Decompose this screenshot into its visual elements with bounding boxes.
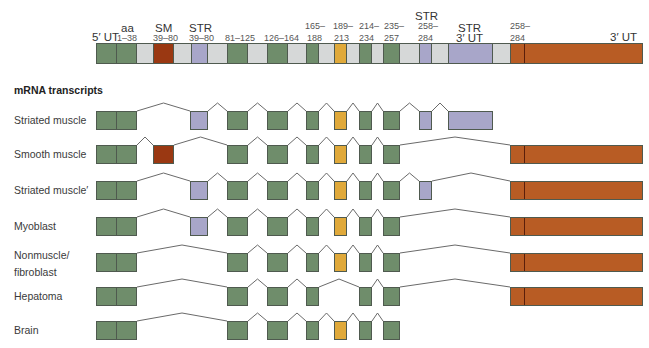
intron-line: [288, 137, 306, 145]
intron-line: [248, 137, 267, 145]
exon-e165: [306, 253, 319, 272]
exon-e81: [227, 253, 248, 272]
intron-line: [319, 279, 359, 287]
exon-brown: [510, 287, 643, 306]
intron-line: [248, 173, 267, 181]
exon-e126: [267, 111, 288, 130]
intron-line: [400, 245, 510, 253]
transcript-label: Striated muscle′: [14, 184, 88, 197]
exon-e5ut: [96, 253, 117, 272]
intron-line: [400, 173, 419, 181]
intron-line: [319, 103, 334, 111]
intron-line: [288, 245, 306, 253]
exon-e1: [116, 111, 137, 130]
intron-line: [288, 209, 306, 217]
exon-e214: [359, 321, 372, 340]
exon-e81: [227, 287, 248, 306]
exon-e214: [359, 253, 372, 272]
intron-line: [208, 173, 227, 181]
exon-e165: [306, 321, 319, 340]
intron-line: [288, 313, 306, 321]
exon-e81: [227, 111, 248, 130]
exon-e1: [116, 287, 137, 306]
exon-e165: [306, 217, 319, 236]
intron-line: [432, 173, 510, 181]
transcript-label-line: Striated muscle: [14, 114, 86, 127]
exon-e81: [227, 145, 248, 164]
exon-e1: [116, 145, 137, 164]
exon-e81: [227, 217, 248, 236]
transcript-label-line: Hepatoma: [14, 290, 62, 303]
intron-line: [137, 313, 227, 321]
exon-e126: [267, 181, 288, 200]
exon-e258: [419, 181, 432, 200]
exon-e235: [383, 217, 400, 236]
exon-e5ut: [96, 321, 117, 340]
exon-e5ut: [96, 217, 117, 236]
exon-e5ut: [96, 181, 117, 200]
intron-line: [137, 209, 190, 217]
intron-line: [432, 103, 448, 111]
intron-line: [347, 245, 359, 253]
intron-line: [137, 245, 227, 253]
exon-e165: [306, 181, 319, 200]
transcript-label-line: Brain: [14, 324, 39, 337]
transcript-label: Brain: [14, 324, 39, 337]
segment-divider: [524, 218, 525, 235]
intron-line: [208, 103, 227, 111]
segment-divider: [524, 182, 525, 199]
exon-brown: [510, 181, 643, 200]
transcript-label-line: fibroblast: [14, 264, 69, 281]
transcript-label: Striated muscle: [14, 114, 86, 127]
transcript-label-line: Striated muscle′: [14, 184, 88, 197]
exon-brown: [510, 145, 643, 164]
intron-line: [288, 173, 306, 181]
exon-e189: [334, 321, 347, 340]
exon-e165: [306, 145, 319, 164]
exon-str: [190, 217, 208, 236]
segment-divider: [524, 254, 525, 271]
exon-e126: [267, 321, 288, 340]
exon-e5ut: [96, 145, 117, 164]
exon-e214: [359, 111, 372, 130]
exon-e214: [359, 181, 372, 200]
transcript-label: Smooth muscle: [14, 148, 86, 161]
intron-line: [372, 103, 383, 111]
exon-str: [190, 181, 208, 200]
exon-e214: [359, 287, 372, 306]
intron-line: [319, 313, 334, 321]
intron-line: [137, 137, 153, 145]
exon-e5ut: [96, 111, 117, 130]
exon-e165: [306, 287, 319, 306]
exon-e126: [267, 287, 288, 306]
intron-line: [248, 279, 267, 287]
exon-e1: [116, 321, 137, 340]
exon-sm: [153, 145, 174, 164]
intron-line: [400, 279, 510, 287]
exon-e235: [383, 145, 400, 164]
transcript-label: Nonmuscle/fibroblast: [14, 247, 69, 281]
intron-line: [248, 103, 267, 111]
intron-line: [174, 137, 227, 145]
intron-line: [208, 209, 227, 217]
exon-e214: [359, 217, 372, 236]
intron-line: [400, 209, 510, 217]
exon-e1: [116, 253, 137, 272]
intron-line: [319, 245, 334, 253]
exon-e258: [419, 111, 432, 130]
intron-line: [347, 313, 359, 321]
intron-line: [400, 137, 510, 145]
exon-e126: [267, 145, 288, 164]
intron-line: [248, 245, 267, 253]
exon-brown: [510, 253, 643, 272]
intron-line: [288, 279, 306, 287]
intron-line: [288, 103, 306, 111]
exon-e5ut: [96, 287, 117, 306]
intron-line: [372, 279, 383, 287]
intron-line: [137, 279, 227, 287]
intron-line: [319, 173, 334, 181]
intron-line: [372, 313, 383, 321]
exon-e235: [383, 253, 400, 272]
exon-str3: [448, 111, 493, 130]
intron-line: [372, 173, 383, 181]
